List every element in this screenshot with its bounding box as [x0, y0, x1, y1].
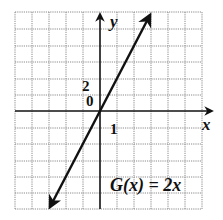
x-tick-label: 1 [110, 121, 118, 137]
function-graph: y x 2 0 1 G(x) = 2x [0, 0, 223, 220]
x-axis-label: x [201, 115, 211, 134]
origin-label: 0 [86, 93, 94, 109]
y-tick-label: 2 [82, 78, 90, 94]
function-label: G(x) = 2x [110, 175, 181, 196]
y-axis-label: y [108, 12, 118, 31]
